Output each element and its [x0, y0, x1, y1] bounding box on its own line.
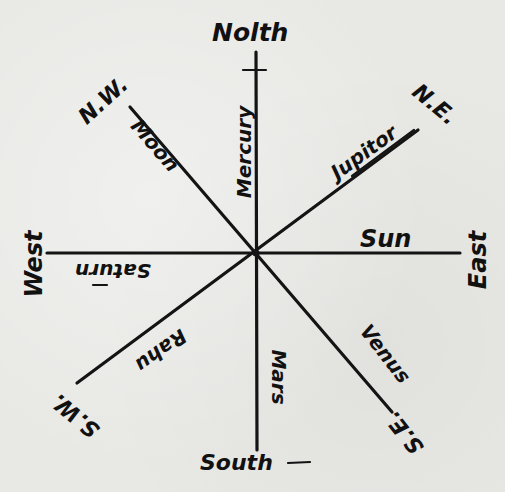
label-north-west: N.W.: [73, 72, 132, 129]
ruler-southwest-rahu: Rahu: [131, 324, 192, 377]
ruler-north-mercury: Mercury: [232, 105, 256, 198]
label-south: South: [200, 450, 273, 475]
label-west: West: [20, 229, 48, 298]
ruler-east-sun: Sun: [360, 225, 411, 253]
label-south-east: S.E.: [380, 406, 429, 459]
center-point: [253, 250, 260, 257]
ruler-south-mars: Mars: [267, 349, 291, 404]
label-east: East: [464, 229, 492, 289]
compass-diagram: Nolth Mercury N.W. Moon N.E. Jupitor Wes…: [0, 0, 505, 492]
ruler-northeast-jupiter: Jupitor: [323, 120, 403, 187]
ruler-northwest-moon: Moon: [126, 114, 185, 176]
label-north: Nolth: [212, 18, 288, 47]
label-north-east: N.E.: [408, 79, 462, 130]
label-south-west: S.W.: [46, 389, 104, 443]
ruler-west-saturn: Saturn: [75, 259, 151, 283]
south-flourish: [288, 462, 310, 463]
